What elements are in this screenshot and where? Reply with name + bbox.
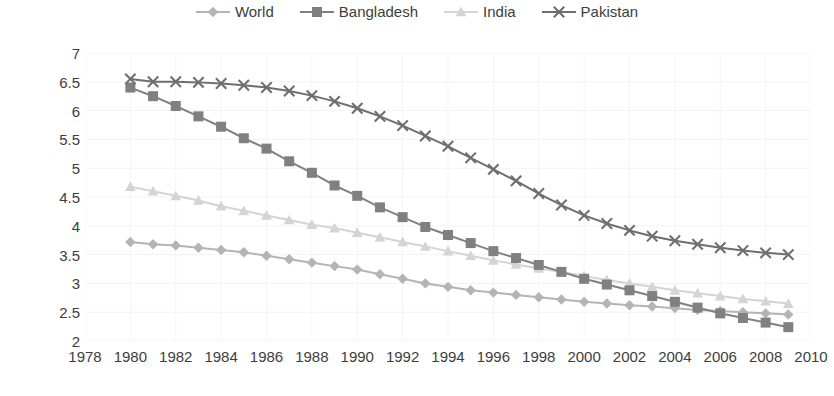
x-tick-label: 1988	[295, 348, 328, 366]
plot-area	[85, 53, 811, 341]
legend-item-world[interactable]: World	[196, 4, 274, 20]
x-tick-label: 1992	[386, 348, 419, 366]
x-tick-label: 1978	[68, 348, 101, 366]
y-tick-label: 3.5	[8, 247, 80, 262]
y-tick-label: 5	[8, 161, 80, 176]
x-tick-label: 2008	[749, 348, 782, 366]
y-axis: 22.533.544.555.566.57	[0, 0, 80, 396]
y-tick-label: 2.5	[8, 305, 80, 320]
legend-item-pakistan[interactable]: Pakistan	[542, 4, 639, 20]
legend-item-india[interactable]: India	[444, 4, 516, 20]
x-tick-label: 2002	[613, 348, 646, 366]
y-tick-label: 4.5	[8, 190, 80, 205]
x-tick-label: 1982	[159, 348, 192, 366]
x-tick-label: 1994	[431, 348, 464, 366]
legend-swatch-square-icon	[300, 5, 334, 19]
x-axis: 1978198019821984198619881990199219941996…	[0, 348, 834, 372]
fertility-rate-line-chart: WorldBangladeshIndiaPakistan 22.533.544.…	[0, 0, 834, 396]
chart-legend: WorldBangladeshIndiaPakistan	[0, 4, 834, 20]
x-tick-label: 1990	[341, 348, 374, 366]
x-tick-label: 1986	[250, 348, 283, 366]
y-tick-label: 5.5	[8, 132, 80, 147]
data-series-layer	[85, 53, 811, 341]
y-tick-label: 6	[8, 103, 80, 118]
y-tick-label: 4	[8, 218, 80, 233]
legend-swatch-diamond-icon	[196, 5, 230, 19]
x-tick-label: 1984	[204, 348, 237, 366]
legend-item-bangladesh[interactable]: Bangladesh	[300, 4, 418, 20]
y-tick-label: 2	[8, 334, 80, 349]
legend-label: India	[483, 4, 516, 20]
legend-swatch-cross-icon	[542, 5, 576, 19]
y-tick-label: 6.5	[8, 74, 80, 89]
legend-swatch-triangle-icon	[444, 5, 478, 19]
x-tick-label: 2000	[567, 348, 600, 366]
legend-label: Bangladesh	[339, 4, 418, 20]
legend-label: World	[235, 4, 274, 20]
y-tick-label: 3	[8, 276, 80, 291]
x-tick-label: 2004	[658, 348, 691, 366]
series-pakistan	[125, 74, 793, 260]
x-tick-label: 2010	[794, 348, 827, 366]
x-tick-label: 2006	[704, 348, 737, 366]
legend-label: Pakistan	[581, 4, 639, 20]
x-tick-label: 1980	[114, 348, 147, 366]
x-tick-label: 1998	[522, 348, 555, 366]
y-tick-label: 7	[8, 46, 80, 61]
x-tick-label: 1996	[477, 348, 510, 366]
